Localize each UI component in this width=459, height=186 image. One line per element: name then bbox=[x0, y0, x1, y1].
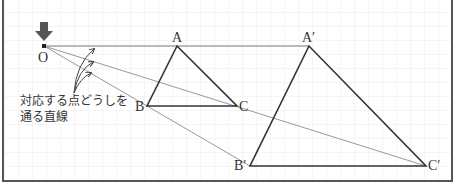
annotation-line-2: 通る直線 bbox=[20, 109, 68, 124]
homothety-diagram: O A B C A′ B′ C′ 対応する点どうしを 通る直線 bbox=[0, 0, 459, 186]
label-o: O bbox=[38, 50, 48, 65]
annotation-line-1: 対応する点どうしを bbox=[20, 94, 128, 108]
label-a: A bbox=[172, 30, 183, 45]
label-c: C bbox=[239, 99, 248, 114]
label-a-prime: A′ bbox=[302, 30, 315, 45]
center-point bbox=[42, 44, 46, 48]
label-b-prime: B′ bbox=[234, 158, 246, 173]
label-b: B bbox=[135, 99, 144, 114]
label-c-prime: C′ bbox=[428, 158, 440, 173]
